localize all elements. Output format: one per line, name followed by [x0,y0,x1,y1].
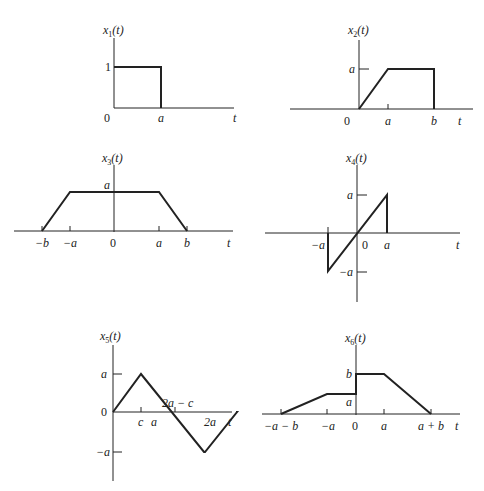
y-label-a: a [349,63,355,75]
x-label-neg-a: −a [63,237,77,249]
plot-title-x4: x4(t) [346,152,367,169]
x-label-b: b [184,237,190,249]
x-label-neg-b: −b [35,237,49,249]
plot-x1 [114,38,234,108]
x-label-neg-a-minus-b: −a − b [264,420,298,432]
plot-x6 [262,345,460,415]
plot-title-x2: x2(t) [348,24,369,41]
plot-x3 [14,165,233,232]
y-label-neg-a: −a [339,266,353,278]
x-label-a: a [151,416,157,428]
x-label-2a-minus-c: 2a − c [162,397,193,409]
y-label-a: a [347,189,353,201]
plot-title-x5: x5(t) [100,330,121,347]
x-label-neg-a: −a [311,239,325,251]
x-label-0: 0 [362,239,368,251]
x-label-neg-a: −a [321,420,335,432]
plot-x2 [290,40,473,109]
x-label-a: a [158,112,164,124]
y-label-b: b [346,368,352,380]
x-label-0: 0 [110,237,116,249]
x-label-0: 0 [344,115,350,127]
x-label-t: t [233,112,236,124]
x-label-0: 0 [352,420,358,432]
y-label-neg-a: −a [96,446,110,458]
x-label-t: t [227,237,230,249]
signal-curve [113,374,237,452]
signal-curve [114,67,161,108]
y-label-a: a [346,396,352,408]
y-label-a: a [104,179,110,191]
y-label-a: a [101,368,107,380]
x-label-0: 0 [104,112,110,124]
signal-curve [359,69,434,109]
plot-title-x6: x6(t) [345,332,366,349]
x-label-t: t [456,239,459,251]
x-label-2a: 2a [204,416,216,428]
plot-x4 [265,165,460,302]
x-label-a-plus-b: a + b [418,420,444,432]
plot-title-x3: x3(t) [102,152,123,169]
x-label-a: a [381,420,387,432]
x-label-t: t [455,420,458,432]
x-label-b: b [431,115,437,127]
x-label-c: c [138,416,143,428]
x-label-a: a [384,239,390,251]
x-label-t: t [458,115,461,127]
y-label-0: 0 [101,406,107,418]
plot-x5 [113,345,237,481]
x-label-t: t [228,416,231,428]
y-label-1: 1 [105,61,111,73]
plot-title-x1: x1(t) [103,24,124,41]
x-label-a: a [156,237,162,249]
x-label-a: a [385,115,391,127]
